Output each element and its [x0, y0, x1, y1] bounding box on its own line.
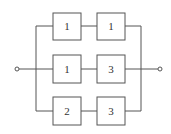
input-terminal-icon: [15, 67, 19, 71]
block-label: 3: [108, 63, 114, 75]
block-bottom-2: 3: [97, 97, 125, 125]
block-bottom-1: 2: [53, 97, 81, 125]
block-top-1: 1: [53, 13, 81, 40]
block-label: 1: [64, 63, 70, 75]
block-middle-1: 1: [53, 55, 81, 83]
block-label: 2: [64, 105, 70, 117]
block-label: 3: [108, 105, 114, 117]
block-label: 1: [64, 20, 70, 32]
reliability-diagram: 1 1 1 3 2 3: [0, 0, 171, 134]
output-terminal-icon: [158, 67, 162, 71]
block-top-2: 1: [97, 13, 125, 40]
block-middle-2: 3: [97, 55, 125, 83]
block-label: 1: [108, 20, 114, 32]
